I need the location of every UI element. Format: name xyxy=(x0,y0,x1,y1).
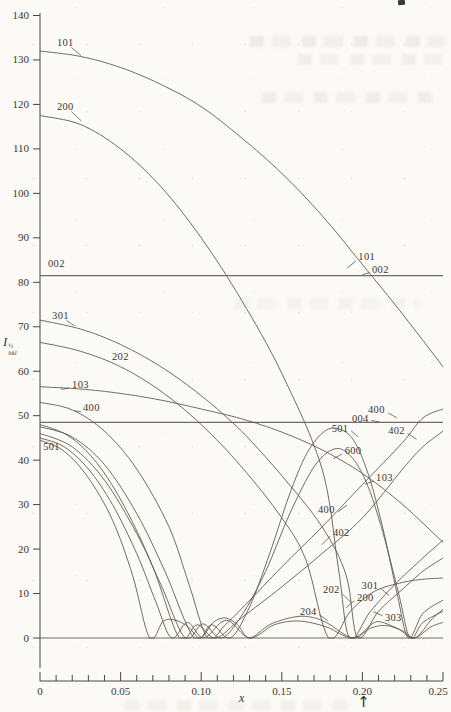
curve-label-501: 501 xyxy=(43,441,60,452)
y-tick-label: 20 xyxy=(18,543,30,555)
label-leader xyxy=(362,273,369,275)
label-leader xyxy=(322,536,330,544)
scanned-book-page: 010203040506070809010011012013014000.050… xyxy=(0,0,451,712)
y-tick-label: 120 xyxy=(13,98,30,110)
curve-label-400: 400 xyxy=(83,402,100,413)
series-202 xyxy=(40,342,443,638)
label-leader xyxy=(351,431,358,437)
curve-label-200: 200 xyxy=(57,101,74,112)
y-tick-label: 50 xyxy=(18,409,30,421)
series-400 xyxy=(40,402,443,638)
curve-label-400: 400 xyxy=(368,404,385,415)
x-tick-label: 0.25 xyxy=(428,685,448,697)
x-axis-label: x xyxy=(239,691,244,706)
label-leader xyxy=(67,321,75,326)
curve-label-002: 002 xyxy=(48,258,65,269)
y-tick-label: 0 xyxy=(24,632,30,644)
x-tick-label: 0.15 xyxy=(272,685,292,697)
y-axis-label-base: I xyxy=(3,334,7,349)
series-101 xyxy=(40,51,443,367)
curve-label-204: 204 xyxy=(300,606,317,617)
curve-label-004: 004 xyxy=(352,413,369,424)
curve-label-402: 402 xyxy=(388,425,405,436)
curve-label-402: 402 xyxy=(333,527,350,538)
y-tick-label: 80 xyxy=(18,276,30,288)
intensity-vs-x-plot: 010203040506070809010011012013014000.050… xyxy=(0,0,451,712)
y-tick-label: 10 xyxy=(18,587,30,599)
x-tick-label: 0 xyxy=(37,685,43,697)
curve-label-501: 501 xyxy=(332,423,349,434)
y-axis-label: I½hkl xyxy=(3,334,16,356)
curve-label-103: 103 xyxy=(72,379,89,390)
curve-label-400: 400 xyxy=(318,504,335,515)
label-leader xyxy=(408,433,417,439)
curve-label-202: 202 xyxy=(112,351,129,362)
curve-label-101: 101 xyxy=(358,251,375,262)
y-axis-label-superscript: ½ xyxy=(8,342,16,349)
y-tick-label: 70 xyxy=(18,320,30,332)
x-tick-label: 0.10 xyxy=(192,685,212,697)
y-tick-label: 130 xyxy=(13,53,30,65)
x-tick-label: 0.05 xyxy=(111,685,131,697)
curve-label-002: 002 xyxy=(372,264,389,275)
label-leader xyxy=(347,261,356,268)
y-axis-label-subscript: hkl xyxy=(8,349,16,356)
curve-label-103: 103 xyxy=(376,472,393,483)
y-tick-label: 30 xyxy=(18,498,30,510)
y-tick-label: 110 xyxy=(13,142,30,154)
curve-label-200: 200 xyxy=(357,592,374,603)
curve-label-301: 301 xyxy=(362,580,379,591)
y-tick-label: 60 xyxy=(18,365,30,377)
curve-label-101: 101 xyxy=(57,37,74,48)
curve-label-301: 301 xyxy=(52,310,69,321)
annotation-arrow: ↑ xyxy=(357,693,370,711)
label-leader xyxy=(71,48,81,56)
y-tick-label: 40 xyxy=(18,454,30,466)
curve-label-303: 303 xyxy=(385,612,402,623)
y-tick-label: 140 xyxy=(13,9,30,21)
y-tick-label: 90 xyxy=(18,231,30,243)
curve-label-600: 600 xyxy=(345,445,362,456)
label-leader xyxy=(388,413,397,418)
curve-label-202: 202 xyxy=(323,584,340,595)
label-leader xyxy=(71,112,81,121)
series-200 xyxy=(40,116,443,639)
y-tick-label: 100 xyxy=(13,187,30,199)
